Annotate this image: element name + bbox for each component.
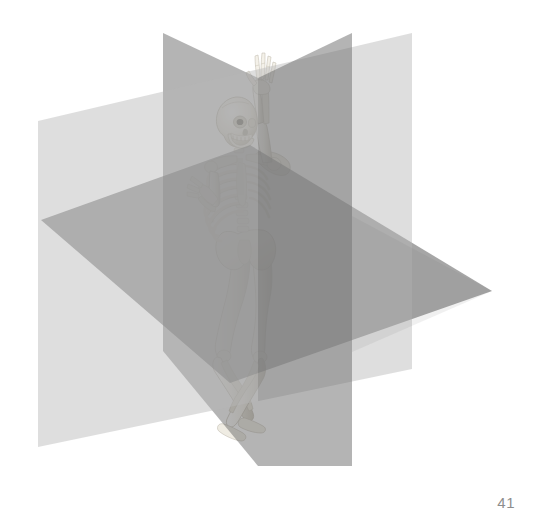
figure-stage bbox=[0, 0, 533, 524]
sagittal-plane-lower-wing bbox=[258, 33, 352, 466]
transverse-plane-right-lobe bbox=[352, 216, 492, 352]
page-number: 41 bbox=[497, 495, 515, 510]
anatomical-planes-figure bbox=[0, 0, 533, 524]
